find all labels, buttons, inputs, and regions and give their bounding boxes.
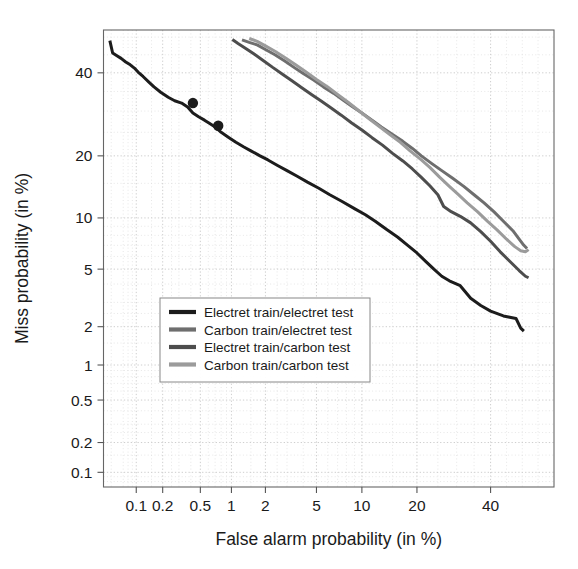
x-tick-label: 5: [312, 497, 321, 514]
y-tick-label: 20: [75, 147, 93, 164]
legend-label-2: Electret train/carbon test: [204, 340, 351, 355]
y-tick-label: 2: [84, 318, 93, 335]
figure-background: [0, 0, 578, 569]
y-tick-label: 0.5: [71, 392, 93, 409]
marker-0-1: [213, 120, 223, 130]
x-tick-label: 0.5: [190, 497, 212, 514]
marker-0-0: [188, 98, 198, 108]
x-tick-label: 1: [227, 497, 236, 514]
x-axis-title: False alarm probability (in %): [215, 529, 442, 549]
det-curve-figure: 0.10.20.5125102040 4020105210.50.20.1 Fa…: [0, 0, 578, 569]
y-tick-label: 0.1: [71, 464, 93, 481]
y-tick-label: 5: [84, 261, 93, 278]
y-tick-label: 40: [75, 64, 93, 81]
legend-label-0: Electret train/electret test: [204, 305, 354, 320]
x-tick-label: 2: [261, 497, 270, 514]
x-tick-label: 20: [408, 497, 426, 514]
x-tick-label: 40: [482, 497, 500, 514]
y-tick-label: 10: [75, 209, 93, 226]
legend-label-1: Carbon train/electret test: [204, 323, 352, 338]
y-tick-label: 1: [84, 357, 93, 374]
y-axis-title: Miss probability (in %): [12, 173, 32, 344]
legend: Electret train/electret testCarbon train…: [160, 298, 370, 382]
x-tick-label: 0.1: [125, 497, 147, 514]
y-tick-label: 0.2: [71, 434, 93, 451]
x-tick-label: 0.2: [152, 497, 174, 514]
legend-label-3: Carbon train/carbon test: [204, 358, 349, 373]
x-tick-label: 10: [353, 497, 371, 514]
